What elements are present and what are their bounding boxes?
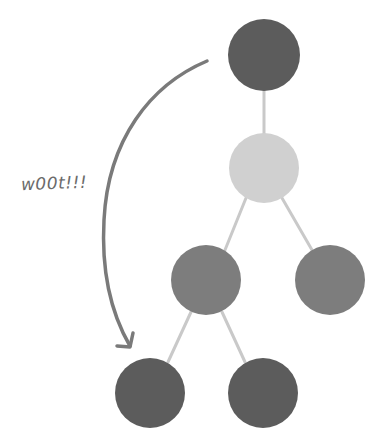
node-level1 <box>229 133 299 203</box>
edge-level1-level2-right <box>282 198 312 250</box>
node-level3-left <box>115 358 185 428</box>
nodes <box>115 19 365 428</box>
edge-level2-left-level3-left <box>168 312 191 362</box>
edges <box>168 90 312 362</box>
node-level2-left <box>171 245 241 315</box>
tree-diagram <box>0 0 382 443</box>
node-root <box>228 19 300 91</box>
edge-level2-left-level3-right <box>222 312 245 362</box>
node-level3-right <box>228 358 298 428</box>
annotation-text: w00t!!! <box>21 172 88 194</box>
edge-level1-level2-left <box>225 198 246 250</box>
node-level2-right <box>295 245 365 315</box>
